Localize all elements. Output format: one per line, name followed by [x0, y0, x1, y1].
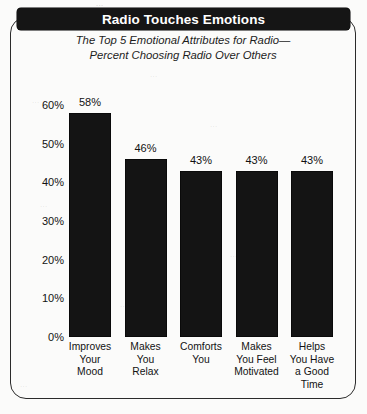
x-axis-category-label: ComfortsYou [172, 341, 230, 366]
x-axis-category-label-line: Your [61, 354, 119, 367]
bar-value-label: 43% [174, 154, 228, 166]
bar-series: 58%ImprovesYourMood46%MakesYouRelax43%Co… [69, 0, 357, 414]
y-axis-tick-label: 0% [22, 331, 64, 343]
y-axis-tick-label: 60% [22, 99, 64, 111]
plot-area: 60%50%40%30%20%10%0% 58%ImprovesYourMood… [0, 0, 367, 414]
x-axis-category-label-line: Improves [61, 341, 119, 354]
x-axis-category-label-line: You [172, 354, 230, 367]
y-axis-tick-label: 10% [22, 292, 64, 304]
x-axis-category-label-line: Motivated [228, 366, 286, 379]
scanned-page-background: ... ... ... ... ... ... ... ... Radio To… [0, 0, 367, 414]
x-axis-category-label-line: Comforts [172, 341, 230, 354]
bar [236, 171, 278, 337]
x-axis-category-label-line: Makes [117, 341, 175, 354]
x-axis-category-label: MakesYou FeelMotivated [228, 341, 286, 379]
x-axis-category-label-line: You Have [283, 354, 341, 367]
x-axis-category-label: ImprovesYourMood [61, 341, 119, 379]
x-axis-category-label-line: Makes [228, 341, 286, 354]
bar-value-label: 46% [119, 142, 173, 154]
x-axis-category-label: HelpsYou Havea GoodTime [283, 341, 341, 391]
y-axis-tick-label: 40% [22, 176, 64, 188]
bar [291, 171, 333, 337]
y-axis-tick-label: 50% [22, 138, 64, 150]
bar-value-label: 58% [63, 96, 117, 108]
x-axis-category-label-line: You [117, 354, 175, 367]
bar [125, 159, 167, 337]
x-axis-category-label-line: Time [283, 379, 341, 392]
bar [180, 171, 222, 337]
bar-value-label: 43% [230, 154, 284, 166]
y-axis-tick-label: 30% [22, 215, 64, 227]
bar [69, 113, 111, 337]
x-axis-category-label: MakesYouRelax [117, 341, 175, 379]
y-axis: 60%50%40%30%20%10%0% [22, 0, 64, 414]
x-axis-category-label-line: Mood [61, 366, 119, 379]
x-axis-category-label-line: Helps [283, 341, 341, 354]
x-axis-category-label-line: a Good [283, 366, 341, 379]
x-axis-category-label-line: Relax [117, 366, 175, 379]
bar-value-label: 43% [285, 154, 339, 166]
x-axis-category-label-line: You Feel [228, 354, 286, 367]
y-axis-tick-label: 20% [22, 254, 64, 266]
